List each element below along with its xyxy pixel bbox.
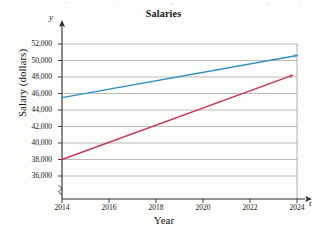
y-axis-tick-label: 46,000 (8, 89, 52, 98)
plot-area (0, 0, 327, 235)
x-axis-tick-label: 2022 (233, 203, 267, 212)
y-axis-tick-label: 38,000 (8, 155, 52, 164)
y-axis-tick-label: 44,000 (8, 105, 52, 114)
y-axis-tick-label: 36,000 (8, 171, 52, 180)
y-axis-tick-label: 42,000 (8, 122, 52, 131)
y-axis-tick-label: 48,000 (8, 72, 52, 81)
x-axis-tick-label: 2016 (92, 203, 126, 212)
y-axis-tick-label: 52,000 (8, 39, 52, 48)
chart-screenshot: Salaries Salary (dollars) Year y t 36,00… (0, 0, 327, 235)
x-axis-tick-label: 2014 (45, 203, 79, 212)
x-axis-tick-label: 2024 (280, 203, 314, 212)
x-axis-tick-label: 2018 (139, 203, 173, 212)
y-axis-tick-label: 40,000 (8, 138, 52, 147)
x-axis-tick-label: 2020 (186, 203, 220, 212)
y-axis-tick-label: 50,000 (8, 56, 52, 65)
data-line-red-line (62, 75, 292, 159)
x-axis-arrowhead (305, 196, 312, 202)
data-line-blue-line (62, 56, 297, 98)
